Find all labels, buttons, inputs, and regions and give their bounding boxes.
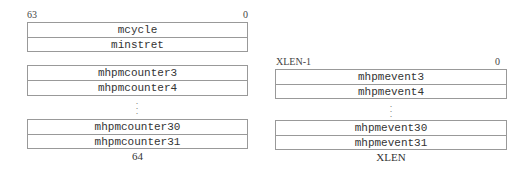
left-counter-group-2: mhpmcounter3 mhpmcounter4 [27,65,248,96]
left-ellipsis: ··· [135,101,139,116]
register-mhpmevent3: mhpmevent3 [276,70,506,84]
left-counter-group-1: mcycle minstret [27,22,248,52]
register-mhpmevent31: mhpmevent31 [276,135,506,149]
left-width-label: 64 [27,150,248,162]
left-counter-group-3: mhpmcounter30 mhpmcounter31 [27,119,248,149]
register-mhpmcounter4: mhpmcounter4 [28,80,247,94]
register-minstret: minstret [28,37,247,51]
register-mhpmevent4: mhpmevent4 [276,84,506,98]
register-mcycle: mcycle [28,23,247,37]
register-mhpmcounter3: mhpmcounter3 [28,66,247,80]
right-ellipsis: ··· [389,104,393,119]
right-event-group-1: mhpmevent3 mhpmevent4 [275,69,507,99]
right-msb-label: XLEN-1 [276,57,311,67]
register-mhpmcounter31: mhpmcounter31 [28,134,247,148]
left-msb-label: 63 [27,10,37,20]
left-lsb-label: 0 [243,10,248,20]
right-width-label: XLEN [275,151,507,163]
right-event-group-2: mhpmevent30 mhpmevent31 [275,120,507,150]
register-mhpmevent30: mhpmevent30 [276,121,506,135]
right-lsb-label: 0 [495,57,500,67]
register-mhpmcounter30: mhpmcounter30 [28,120,247,134]
